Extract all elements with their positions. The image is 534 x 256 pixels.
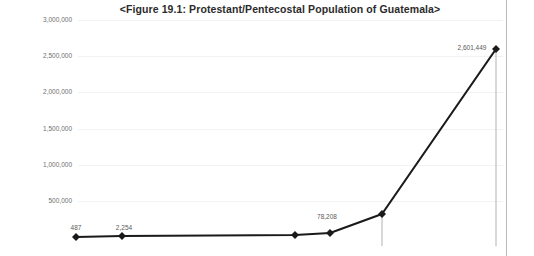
data-point-label: 78,208 <box>317 213 337 220</box>
data-point-label: 2,254 <box>116 224 132 231</box>
data-point-label: 487 <box>71 224 82 231</box>
plot-area: 3,000,0002,500,0002,000,0001,500,0001,00… <box>0 0 534 256</box>
series-line <box>76 49 496 237</box>
series-markers-group <box>72 45 500 241</box>
data-point-marker <box>291 231 299 239</box>
droplines-group <box>382 49 496 246</box>
figure-page: <Figure 19.1: Protestant/Pentecostal Pop… <box>0 0 534 256</box>
data-point-marker <box>118 232 126 240</box>
series-chart-svg <box>0 0 534 256</box>
data-point-marker <box>326 229 334 237</box>
data-point-marker <box>72 233 80 241</box>
data-point-label: 2,601,449 <box>458 44 487 51</box>
